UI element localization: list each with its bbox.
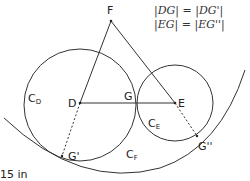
label-d: D [68,97,76,110]
segment-fd [80,21,111,103]
label-g2: G'' [198,140,213,153]
label-g: G [124,90,133,103]
equation-eg: |EG| = |EG''| [154,18,225,32]
label-g1: G' [68,150,80,163]
label-cd: CD [28,92,41,106]
point-e [174,102,177,105]
point-d [79,102,82,105]
label-cf: CF [126,148,138,162]
caption: 15 in [0,168,28,181]
tangent-circles-diagram: F D G E G' G'' CD CE CF |DG| = |DG'| |EG… [0,0,250,181]
label-ce: CE [148,117,160,131]
point-g1 [61,155,63,157]
point-g2 [196,135,198,137]
equation-dg: |DG| = |DG'| [154,4,223,18]
label-f: F [107,4,113,17]
label-e: E [178,97,185,110]
segment-dg1 [62,103,80,156]
segment-fe [111,21,175,103]
point-f [110,20,113,23]
